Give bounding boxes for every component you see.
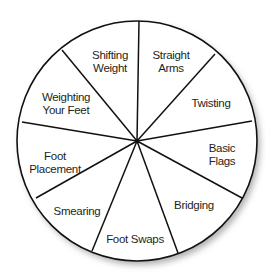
wheel-hub <box>135 139 139 143</box>
segment-label: Smearing <box>54 205 101 218</box>
segment-label: Foot Placement <box>29 150 81 176</box>
segment-label: Basic Flags <box>200 142 244 168</box>
segment-label: Foot Swaps <box>106 233 164 246</box>
segment-label: Straight Arms <box>152 49 189 75</box>
segment-label: Shifting Weight <box>92 49 128 75</box>
segment-label: Weighting Your Feet <box>42 91 90 117</box>
segment-label: Bridging <box>174 199 214 212</box>
segment-label: Twisting <box>191 97 230 110</box>
